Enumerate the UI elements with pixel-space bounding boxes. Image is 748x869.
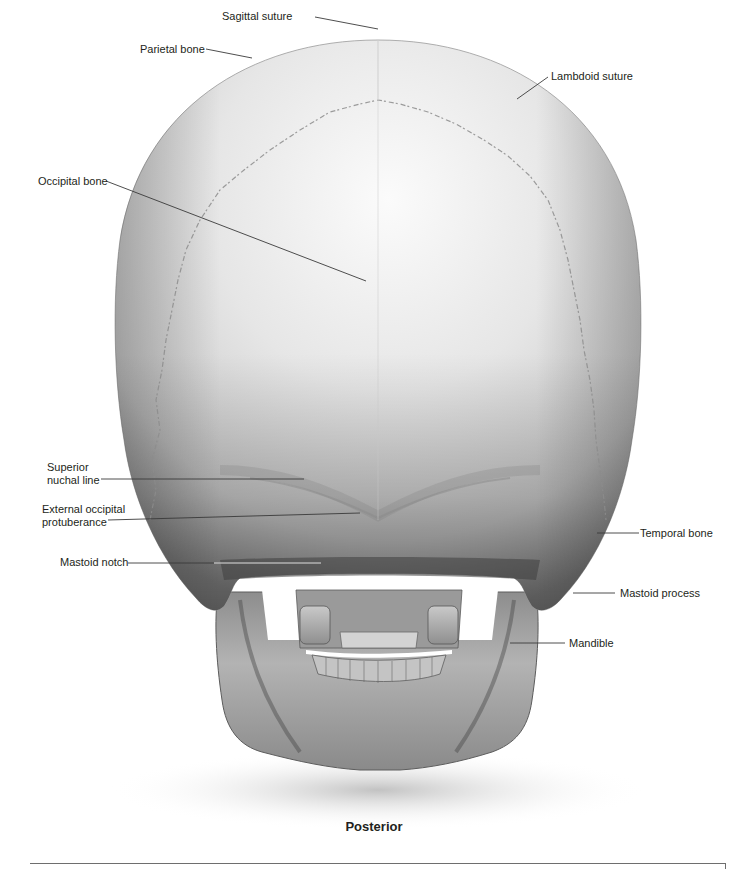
label-mastoid-notch: Mastoid notch	[60, 556, 128, 569]
label-occipital-bone: Occipital bone	[38, 175, 108, 188]
label-external-occipital-protuberance: External occipital protuberance	[42, 503, 125, 529]
footer-divider-tick	[725, 863, 726, 869]
label-parietal-bone: Parietal bone	[140, 43, 205, 56]
skull-illustration	[0, 0, 748, 869]
label-sagittal-suture: Sagittal suture	[222, 10, 292, 23]
label-lambdoid-suture: Lambdoid suture	[551, 70, 633, 83]
label-superior-nuchal-line: Superior nuchal line	[47, 461, 100, 487]
leader-parietal-bone	[206, 49, 252, 58]
leader-sagittal-suture	[315, 17, 378, 29]
gap-left	[262, 590, 300, 640]
label-mastoid-process: Mastoid process	[620, 587, 700, 600]
skull-posterior-figure: Sagittal suture Parietal bone Lambdoid s…	[0, 0, 748, 869]
view-caption: Posterior	[0, 819, 748, 834]
teeth	[296, 590, 462, 683]
label-temporal-bone: Temporal bone	[640, 527, 713, 540]
label-mandible: Mandible	[569, 637, 614, 650]
cranium-shape	[115, 40, 641, 610]
footer-divider	[30, 863, 725, 864]
